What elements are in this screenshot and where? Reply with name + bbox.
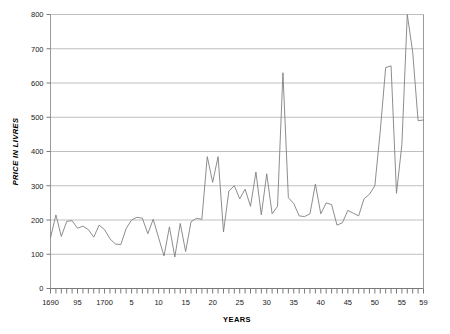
y-axis-tick-label: 600 — [31, 79, 44, 88]
price-chart: 0100200300400500600700800 16909517005101… — [0, 0, 450, 334]
x-axis-title: YEARS — [223, 315, 251, 324]
x-axis-tick-label: 55 — [398, 298, 406, 307]
y-axis-tick-label: 500 — [31, 113, 44, 122]
y-axis-title: PRICE IN LIVRES — [11, 118, 20, 186]
y-axis-tick-label: 700 — [31, 45, 44, 54]
x-axis-tick-label: 10 — [154, 298, 162, 307]
y-axis-tick-label: 100 — [31, 250, 44, 259]
x-axis-tick-label: 20 — [209, 298, 217, 307]
y-axis-tick-label: 300 — [31, 182, 44, 191]
x-axis-tick-label: 5 — [130, 298, 134, 307]
x-axis-tick-label: 50 — [371, 298, 379, 307]
y-axis-tick-label: 400 — [31, 147, 44, 156]
x-axis: 169095170051015202530354045505559 — [42, 289, 428, 307]
price-line — [51, 15, 424, 257]
x-axis-tick-label: 30 — [263, 298, 271, 307]
x-axis-tick-label: 59 — [419, 298, 427, 307]
x-axis-tick-label: 1690 — [42, 298, 59, 307]
y-axis-tick-label: 0 — [39, 284, 43, 293]
chart-canvas: 0100200300400500600700800 16909517005101… — [0, 0, 450, 334]
x-axis-tick-label: 35 — [290, 298, 298, 307]
x-axis-tick-label: 1700 — [96, 298, 113, 307]
data-series-line — [51, 15, 424, 257]
x-axis-tick-label: 40 — [317, 298, 325, 307]
y-axis-tick-label: 800 — [31, 10, 44, 19]
grid-lines — [51, 15, 424, 255]
x-axis-tick-label: 45 — [344, 298, 352, 307]
y-axis: 0100200300400500600700800 — [31, 10, 51, 293]
y-axis-tick-label: 200 — [31, 216, 44, 225]
x-axis-tick-label: 15 — [181, 298, 189, 307]
x-axis-tick-label: 95 — [73, 298, 81, 307]
x-axis-tick-label: 25 — [236, 298, 244, 307]
